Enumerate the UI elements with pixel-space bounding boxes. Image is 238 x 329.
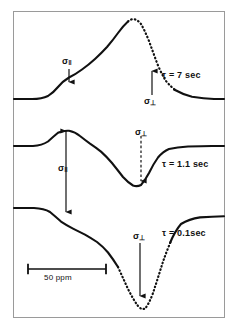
- trace-top-group: [14, 19, 224, 99]
- sigma-perpendicular-subscript: ⊥: [141, 130, 147, 137]
- sigma-perpendicular-label-bottom: σ⊥: [133, 231, 145, 242]
- sigma-parallel-label-top: σ‖: [62, 56, 72, 66]
- scale-bar-label: 50 ppm: [44, 273, 72, 282]
- trace-bottom-dotted-trough: [118, 241, 171, 309]
- trace-bottom-group: [14, 208, 224, 309]
- tau-label-bottom: τ = 0.1sec: [162, 228, 206, 238]
- tau-label-middle: τ = 1.1 sec: [162, 159, 209, 169]
- tau-label-top: τ = 7 sec: [162, 70, 201, 80]
- sigma-perpendicular-label-top: σ⊥: [144, 96, 156, 107]
- sigma-parallel-label-middle: σ‖: [58, 163, 68, 173]
- sigma-perpendicular-subscript: ⊥: [150, 99, 156, 106]
- trace-bottom-solid-left: [14, 208, 118, 267]
- sigma-perpendicular-subscript: ⊥: [139, 234, 145, 241]
- trace-top-solid-right: [174, 90, 224, 100]
- nmr-spectra-figure: τ = 7 sec τ = 1.1 sec τ = 0.1sec σ‖ σ‖ σ…: [0, 0, 238, 329]
- sigma-parallel-subscript: ‖: [64, 166, 67, 173]
- sigma-parallel-subscript: ‖: [68, 59, 71, 66]
- sigma-perpendicular-label-middle: σ⊥: [135, 127, 147, 138]
